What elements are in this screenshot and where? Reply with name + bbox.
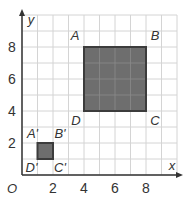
origin-label: O: [7, 181, 17, 196]
square-image: [38, 143, 54, 159]
vertex-label-Dprime: D': [26, 160, 38, 175]
x-axis-label: x: [168, 158, 176, 173]
shapes: [38, 47, 147, 159]
x-tick-label: 8: [142, 180, 150, 196]
vertex-label-C: C: [150, 113, 160, 128]
y-tick-label: 8: [8, 39, 16, 55]
vertex-label-Cprime: C': [54, 160, 66, 175]
coordinate-grid-diagram: 24682468OxyABCDA'B'C'D': [0, 0, 186, 202]
x-tick-label: 2: [49, 180, 57, 196]
vertex-label-A: A: [70, 28, 80, 43]
square-ABCD: [84, 47, 146, 111]
vertex-label-Aprime: A': [26, 126, 39, 141]
vertex-label-B: B: [151, 28, 160, 43]
vertex-label-Bprime: B': [54, 126, 66, 141]
y-tick-label: 6: [8, 71, 16, 87]
y-axis-arrow-icon: [19, 9, 25, 16]
y-tick-label: 4: [8, 103, 16, 119]
x-tick-label: 4: [80, 180, 88, 196]
y-axis-label: y: [27, 12, 36, 27]
x-axis-arrow-icon: [176, 172, 183, 178]
vertex-label-D: D: [71, 113, 80, 128]
x-tick-label: 6: [111, 180, 119, 196]
y-tick-label: 2: [8, 135, 16, 151]
